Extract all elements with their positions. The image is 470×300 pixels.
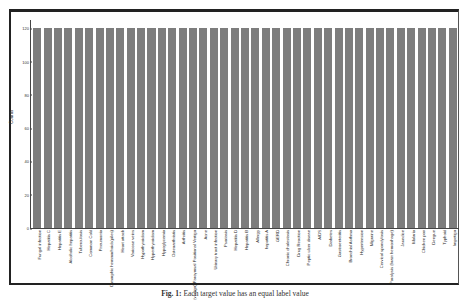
bar	[293, 28, 301, 228]
x-tick: Chicken pox	[415, 229, 425, 284]
bar	[376, 28, 384, 228]
bar	[147, 28, 155, 228]
y-tick-label: 100	[19, 59, 29, 64]
bar	[241, 28, 249, 228]
bar	[272, 28, 280, 228]
bar	[127, 28, 135, 228]
bar	[449, 28, 457, 228]
x-tick: Hypothyroidism	[135, 229, 145, 284]
x-tick: Common Cold	[83, 229, 93, 284]
x-tick: Fungal infection	[31, 229, 41, 284]
x-tick: Jaundice	[395, 229, 405, 284]
x-tick: Hyperthyroidism	[145, 229, 155, 284]
x-tick: Hepatitis B	[239, 229, 249, 284]
bar	[44, 28, 52, 228]
bar	[355, 28, 363, 228]
bar	[386, 28, 394, 228]
x-tick: (vertigo) Paroymsal Positional Vertigo	[187, 229, 197, 284]
x-tick: Gastroenteritis	[332, 229, 342, 284]
bar	[407, 28, 415, 228]
bar	[210, 28, 218, 228]
x-tick: Alcoholic hepatitis	[62, 229, 72, 284]
x-tick: Osteoarthristis	[166, 229, 176, 284]
bar-series	[31, 20, 459, 228]
bar	[85, 28, 93, 228]
x-tick: Malaria	[405, 229, 415, 284]
bar	[75, 28, 83, 228]
x-tick: Acne	[197, 229, 207, 284]
x-tick: Heart attack	[114, 229, 124, 284]
bar	[262, 28, 270, 228]
y-tick-label: 20	[19, 192, 29, 197]
x-tick: Hepatitis C	[41, 229, 51, 284]
x-tick: Pneumonia	[93, 229, 103, 284]
x-tick: Dimorphic hemmorhoids(piles)	[104, 229, 114, 284]
bar	[179, 28, 187, 228]
y-tick-label: 0	[19, 226, 29, 231]
bar	[33, 28, 41, 228]
x-tick: Allergy	[249, 229, 259, 284]
x-tick: hepatitis A	[260, 229, 270, 284]
x-tick: AIDS	[312, 229, 322, 284]
x-tick: Hypertension	[353, 229, 363, 284]
bar	[428, 28, 436, 228]
y-tick-label: 60	[19, 126, 29, 131]
y-tick-label: 80	[19, 92, 29, 97]
bar	[231, 28, 239, 228]
x-tick: Hepatitis D	[228, 229, 238, 284]
bar	[397, 28, 405, 228]
x-tick: Psoriasis	[218, 229, 228, 284]
bar	[303, 28, 311, 228]
y-tick-label: 120	[19, 26, 29, 31]
bar	[137, 28, 145, 228]
y-axis-label: Counts	[9, 110, 14, 124]
bar	[64, 28, 72, 228]
x-tick: Paralysis (brain hemorrhage)	[384, 229, 394, 284]
x-tick: Urinary tract infection	[208, 229, 218, 284]
x-tick: Hepatitis E	[52, 229, 62, 284]
x-tick: Hypoglycemia	[156, 229, 166, 284]
x-tick: Peptic ulcer diseae	[301, 229, 311, 284]
bar	[283, 28, 291, 228]
x-tick: Drug Reaction	[291, 229, 301, 284]
x-tick: Varicose veins	[125, 229, 135, 284]
bar	[54, 28, 62, 228]
plot-area: 020406080100120	[30, 20, 459, 229]
x-tick: Diabetes	[322, 229, 332, 284]
bar	[158, 28, 166, 228]
x-tick-label: Impetigo	[452, 230, 457, 246]
x-tick: Tuberculosis	[73, 229, 83, 284]
bar	[314, 28, 322, 228]
bar	[168, 28, 176, 228]
bar	[418, 28, 426, 228]
bar	[335, 28, 343, 228]
bar	[438, 28, 446, 228]
x-tick: Arthritis	[176, 229, 186, 284]
x-axis-tick-labels: Fungal infectionHepatitis CHepatitis EAl…	[30, 229, 458, 284]
x-tick: Impetigo	[447, 229, 457, 284]
bar	[251, 28, 259, 228]
bar	[324, 28, 332, 228]
caption-text: Each target value has an equal label val…	[183, 289, 308, 298]
bar	[96, 28, 104, 228]
x-tick: Chronic cholestasis	[280, 229, 290, 284]
y-tick-label: 40	[19, 159, 29, 164]
x-tick: GERD	[270, 229, 280, 284]
bar	[116, 28, 124, 228]
figure-caption: Fig. 1: Each target value has an equal l…	[0, 289, 470, 298]
bar	[345, 28, 353, 228]
x-tick: Dengue	[426, 229, 436, 284]
x-tick: Bronchial Asthma	[343, 229, 353, 284]
bar	[106, 28, 114, 228]
x-tick: Migraine	[364, 229, 374, 284]
caption-label: Fig. 1:	[161, 289, 181, 298]
bar	[189, 28, 197, 228]
bar	[220, 28, 228, 228]
x-tick: Typhoid	[436, 229, 446, 284]
bar	[366, 28, 374, 228]
x-tick: Cervical spondylosis	[374, 229, 384, 284]
bar	[199, 28, 207, 228]
